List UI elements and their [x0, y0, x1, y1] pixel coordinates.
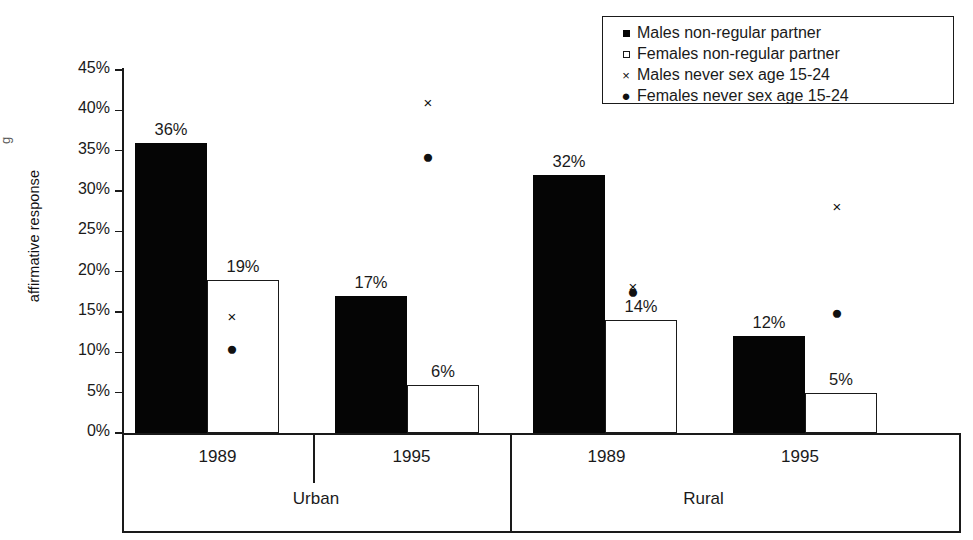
- bar-females-non-regular-partner[interactable]: [207, 280, 279, 433]
- bar-value-label: 5%: [791, 370, 891, 389]
- x-axis-year-label: 1989: [122, 447, 313, 467]
- y-axis-tick: [115, 432, 122, 433]
- y-axis-tick: [115, 352, 122, 353]
- y-axis-tick: [115, 311, 122, 312]
- bar-value-label: 32%: [519, 152, 619, 171]
- y-axis-tick: [115, 271, 122, 272]
- legend-box: Males non-regular partner Females non-re…: [602, 16, 954, 104]
- legend-item[interactable]: ● Females never sex age 15-24: [615, 86, 953, 106]
- cross-icon: ×: [615, 69, 637, 82]
- y-axis-tick: [115, 69, 122, 70]
- x-axis-line: [122, 433, 961, 435]
- legend-item-label: Males never sex age 15-24: [637, 66, 830, 84]
- x-axis-right-border: [959, 433, 961, 533]
- x-axis-region-label: Urban: [122, 489, 510, 509]
- legend-item-label: Males non-regular partner: [637, 24, 821, 42]
- bar-females-non-regular-partner[interactable]: [407, 385, 479, 433]
- y-axis-tick: [115, 392, 122, 393]
- bar-females-non-regular-partner[interactable]: [805, 393, 877, 433]
- x-axis-region-label: Rural: [510, 489, 897, 509]
- y-axis-tick: [115, 190, 122, 191]
- bar-value-label: 17%: [321, 273, 421, 292]
- legend-item[interactable]: × Males never sex age 15-24: [615, 65, 953, 85]
- filled-circle-icon: ●: [615, 90, 637, 102]
- x-axis-year-label: 1995: [313, 447, 510, 467]
- bar-value-label: 14%: [591, 297, 691, 316]
- bar-value-label: 36%: [121, 120, 221, 139]
- y-axis-tick: [115, 110, 122, 111]
- bar-value-label: 12%: [719, 313, 819, 332]
- filled-square-icon: [615, 30, 637, 37]
- y-axis-tick: [115, 150, 122, 151]
- bar-value-label: 6%: [393, 362, 493, 381]
- legend-item[interactable]: Males non-regular partner: [615, 23, 953, 43]
- bar-males-non-regular-partner[interactable]: [135, 143, 207, 433]
- legend-item-label: Females never sex age 15-24: [637, 87, 849, 105]
- legend-item[interactable]: Females non-regular partner: [615, 44, 953, 64]
- x-axis-year-label: 1989: [510, 447, 703, 467]
- x-axis-year-label: 1995: [703, 447, 897, 467]
- chart-canvas: g affirmative response 45%40%35%30%25%20…: [0, 0, 973, 540]
- hollow-square-icon: [615, 51, 637, 58]
- y-axis-title-fragment: g: [0, 137, 13, 144]
- x-axis-table-bottom-border: [122, 531, 961, 533]
- bar-value-label: 19%: [193, 257, 293, 276]
- legend-item-label: Females non-regular partner: [637, 45, 840, 63]
- y-axis-tick: [115, 231, 122, 232]
- bar-females-non-regular-partner[interactable]: [605, 320, 677, 433]
- y-axis-title: affirmative response: [26, 136, 42, 336]
